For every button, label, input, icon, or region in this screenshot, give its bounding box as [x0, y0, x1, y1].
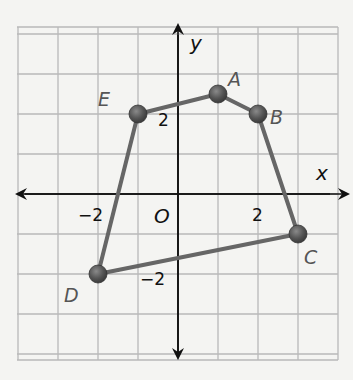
x-tick-label: −2	[78, 205, 103, 225]
polygon-outline	[98, 94, 298, 274]
coordinate-plane-figure: ABCDExyO−222−2	[0, 0, 353, 380]
y-axis-label: y	[189, 31, 203, 55]
vertex-label-e: E	[98, 88, 110, 110]
x-axis-label: x	[315, 161, 328, 185]
vertex-label-b: B	[270, 106, 283, 128]
vertex-point-c	[289, 225, 307, 243]
x-tick-label: 2	[252, 205, 263, 225]
vertex-label-d: D	[64, 284, 79, 306]
polygon-abcde	[98, 94, 298, 274]
vertex-point-a	[209, 85, 227, 103]
vertex-point-b	[249, 105, 267, 123]
origin-label: O	[154, 204, 170, 228]
vertex-label-a: A	[226, 68, 241, 90]
y-tick-label: 2	[158, 110, 169, 130]
coordinate-grid: ABCDExyO−222−2	[0, 0, 353, 380]
vertex-label-c: C	[304, 246, 318, 268]
labels: ABCDExyO−222−2	[64, 31, 328, 306]
vertex-point-d	[89, 265, 107, 283]
vertex-point-e	[129, 105, 147, 123]
y-tick-label: −2	[140, 269, 165, 289]
